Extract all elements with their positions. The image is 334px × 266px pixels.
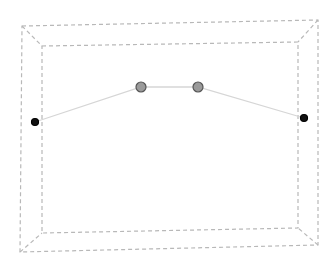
frame-edge-connector xyxy=(22,26,42,46)
inner-frame xyxy=(42,42,298,233)
connecting-line xyxy=(35,87,304,122)
frame-edge-connector xyxy=(298,228,318,245)
frame-edge-connector xyxy=(20,233,42,252)
control-point-1[interactable] xyxy=(136,82,146,92)
diagram-canvas xyxy=(0,0,334,266)
box-wireframe-diagram xyxy=(0,0,334,266)
curve-group xyxy=(35,87,304,122)
right-endpoint[interactable] xyxy=(301,115,308,122)
points-group xyxy=(32,82,308,126)
left-endpoint[interactable] xyxy=(32,119,39,126)
control-point-2[interactable] xyxy=(193,82,203,92)
frame-edge-connector xyxy=(298,20,318,42)
frame-group xyxy=(20,20,318,252)
outer-frame xyxy=(20,20,318,252)
